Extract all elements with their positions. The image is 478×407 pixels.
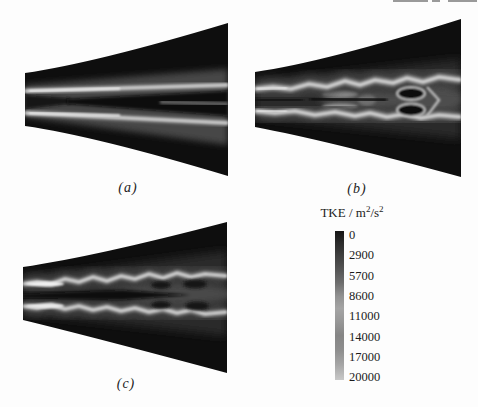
colorbar-tick-label: 11000	[349, 310, 393, 323]
panel-b	[255, 19, 461, 177]
cropped-edge-artifact	[393, 0, 428, 2]
panel-a-contour-plot	[25, 23, 228, 176]
panel-a	[25, 23, 228, 176]
panel-c-contour-plot	[23, 221, 227, 373]
panel-b-label: (b)	[329, 181, 385, 197]
panel-a-label: (a)	[100, 180, 156, 196]
panel-c	[23, 221, 227, 373]
colorbar-tick-label: 20000	[349, 371, 393, 384]
colorbar-title-sup1: 2	[366, 204, 371, 214]
colorbar-tick-label: 5700	[349, 270, 393, 283]
colorbar-title-prefix: TKE / m	[320, 205, 366, 220]
colorbar-tick-label: 0	[349, 229, 393, 242]
colorbar-tick-label: 14000	[349, 331, 393, 344]
colorbar-tick-label: 8600	[349, 290, 393, 303]
colorbar-gradient-bar	[335, 231, 344, 380]
cropped-edge-artifact	[432, 0, 440, 2]
figure-canvas: (a)	[0, 0, 478, 407]
panel-c-label: (c)	[98, 376, 154, 392]
colorbar-title-sup2: 2	[379, 204, 384, 214]
colorbar-title: TKE / m2/s2	[306, 204, 398, 221]
panel-b-contour-plot	[255, 19, 461, 177]
colorbar-title-mid: /s	[370, 205, 379, 220]
colorbar-tick-label: 2900	[349, 249, 393, 262]
colorbar-tick-label: 17000	[349, 351, 393, 364]
cropped-edge-artifact	[448, 0, 477, 2]
